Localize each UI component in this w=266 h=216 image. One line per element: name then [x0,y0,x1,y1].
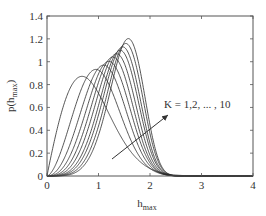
x-tick-label: 2 [147,179,153,191]
curve-k-4 [47,61,253,176]
y-tick-label: 0 [38,170,44,182]
y-tick-label: 1.2 [29,33,43,45]
plot-frame [47,16,253,176]
y-tick-label: 0.6 [29,101,43,113]
y-tick-label: 0.4 [29,124,43,136]
y-axis-title: p(hmax) [4,80,19,112]
curve-k-5 [47,57,253,176]
weibull-distribution-chart: 0123400.20.40.60.811.21.4 hmax p(hmax) K… [0,0,266,216]
y-tick-label: 1 [38,56,44,68]
y-tick-label: 1.4 [29,10,43,22]
x-axis-title: hmax [137,197,156,212]
curve-k-7 [47,50,253,176]
x-tick-label: 3 [199,179,205,191]
y-tick-label: 0.8 [29,79,43,91]
curve-k-6 [47,54,253,176]
k-annotation: K = 1,2, ... , 10 [164,98,231,110]
y-tick-label: 0.2 [29,147,43,159]
x-tick-label: 4 [250,179,256,191]
axis-ticks [47,16,253,176]
x-tick-label: 1 [96,179,102,191]
curve-k-8 [47,47,253,176]
x-tick-label: 0 [44,179,50,191]
